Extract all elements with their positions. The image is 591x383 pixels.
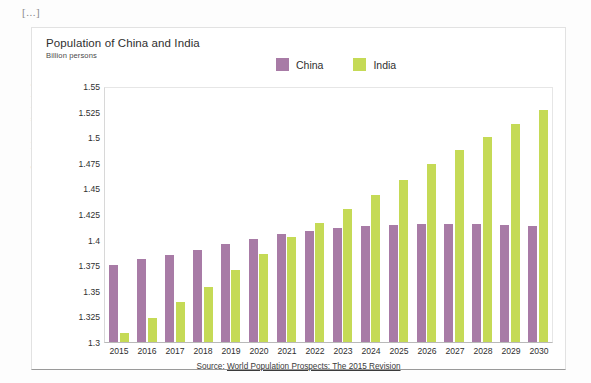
bar-china-2022 (305, 231, 314, 342)
y-axis-tick-label: 1.4 (88, 236, 100, 246)
bar-china-2023 (333, 228, 342, 342)
bar-china-2018 (193, 250, 202, 342)
y-axis-tick-label: 1.35 (83, 287, 100, 297)
x-axis-tick-label: 2018 (189, 346, 217, 356)
bars-layer (105, 88, 552, 342)
y-axis-tick-label: 1.5 (88, 133, 100, 143)
bar-india-2016 (148, 318, 157, 342)
legend-swatch-india-icon (353, 58, 366, 71)
bar-india-2026 (427, 164, 436, 342)
x-axis-tick-label: 2027 (441, 346, 469, 356)
bar-china-2025 (389, 225, 398, 342)
plot-region: 1.31.3251.351.3751.41.4251.451.4751.51.5… (72, 87, 553, 343)
x-axis-tick-label: 2017 (161, 346, 189, 356)
bar-india-2027 (455, 150, 464, 342)
bar-china-2015 (109, 265, 118, 342)
x-axis-tick-label: 2023 (329, 346, 357, 356)
bar-china-2019 (221, 244, 230, 342)
bar-group-2019 (217, 88, 245, 342)
legend-label: India (373, 59, 396, 71)
bar-india-2017 (176, 302, 185, 342)
bar-india-2015 (120, 333, 129, 342)
page-background: [...] Banco de imagens/Arquivo da editor… (0, 0, 591, 383)
bar-group-2017 (161, 88, 189, 342)
bar-group-2024 (356, 88, 384, 342)
figure-card: Population of China and India Billion pe… (31, 27, 566, 370)
bar-group-2026 (412, 88, 440, 342)
legend-label: China (296, 59, 323, 71)
bar-group-2029 (496, 88, 524, 342)
bar-india-2028 (483, 137, 492, 342)
bar-india-2022 (315, 223, 324, 342)
y-axis-tick-label: 1.425 (78, 210, 100, 220)
bar-group-2018 (189, 88, 217, 342)
bar-india-2029 (511, 124, 520, 342)
bar-group-2027 (440, 88, 468, 342)
legend-entry-india: India (353, 58, 396, 71)
bar-group-2015 (105, 88, 133, 342)
bar-china-2029 (500, 225, 509, 342)
x-axis-tick-label: 2028 (469, 346, 497, 356)
bar-group-2020 (245, 88, 273, 342)
x-axis-tick-label: 2030 (525, 346, 553, 356)
bar-group-2022 (301, 88, 329, 342)
chart-title: Population of China and India (46, 37, 565, 49)
y-axis-tick-label: 1.3 (88, 338, 100, 348)
bar-china-2021 (277, 234, 286, 342)
bar-china-2026 (417, 224, 426, 342)
bar-india-2025 (399, 180, 408, 342)
chart-legend: ChinaIndia (276, 58, 396, 71)
x-axis-tick-label: 2015 (105, 346, 133, 356)
x-axis-tick-label: 2020 (245, 346, 273, 356)
bar-group-2030 (524, 88, 552, 342)
chart-header: Population of China and India Billion pe… (32, 28, 565, 60)
bar-india-2019 (231, 270, 240, 342)
bar-group-2023 (329, 88, 357, 342)
bar-group-2025 (384, 88, 412, 342)
x-axis-tick-label: 2021 (273, 346, 301, 356)
bar-india-2030 (539, 110, 548, 342)
bar-china-2017 (165, 255, 174, 342)
y-axis-tick-label: 1.325 (78, 312, 100, 322)
bar-india-2023 (343, 209, 352, 342)
legend-swatch-china-icon (276, 58, 289, 71)
y-axis: 1.31.3251.351.3751.41.4251.451.4751.51.5… (72, 87, 104, 343)
ellipsis-marker: [...] (22, 6, 40, 18)
bar-india-2024 (371, 195, 380, 342)
bar-china-2024 (361, 226, 370, 342)
legend-entry-china: China (276, 58, 323, 71)
source-link[interactable]: World Population Prospects: The 2015 Rev… (227, 362, 401, 371)
y-axis-tick-label: 1.55 (83, 82, 100, 92)
x-axis-tick-label: 2029 (497, 346, 525, 356)
bar-group-2016 (133, 88, 161, 342)
y-axis-tick-label: 1.525 (78, 108, 100, 118)
bar-china-2030 (528, 226, 537, 342)
x-axis-tick-label: 2026 (413, 346, 441, 356)
bar-india-2021 (287, 237, 296, 342)
x-axis-tick-label: 2022 (301, 346, 329, 356)
source-prefix: Source: (196, 362, 227, 371)
y-axis-tick-label: 1.475 (78, 159, 100, 169)
y-axis-tick-label: 1.375 (78, 261, 100, 271)
y-axis-tick-label: 1.45 (83, 184, 100, 194)
x-axis-tick-label: 2025 (385, 346, 413, 356)
bar-china-2027 (444, 224, 453, 342)
x-axis-tick-label: 2016 (133, 346, 161, 356)
bar-india-2018 (204, 287, 213, 342)
bar-china-2016 (137, 259, 146, 342)
x-axis-tick-label: 2019 (217, 346, 245, 356)
bar-china-2020 (249, 239, 258, 342)
x-axis-tick-label: 2024 (357, 346, 385, 356)
bar-group-2028 (468, 88, 496, 342)
bar-group-2021 (273, 88, 301, 342)
source-note: Source: World Population Prospects: The … (32, 362, 565, 371)
x-axis: 2015201620172018201920202021202220232024… (105, 346, 553, 356)
bar-india-2020 (259, 254, 268, 342)
bar-china-2028 (472, 224, 481, 342)
